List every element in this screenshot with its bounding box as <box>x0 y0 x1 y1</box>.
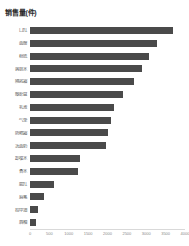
chart-title: 销售量(件) <box>5 7 36 17</box>
bar-cell <box>30 178 189 191</box>
bar-cell <box>30 24 189 37</box>
bar-cell <box>30 127 189 140</box>
bar-row: 乳液 <box>0 101 189 114</box>
bar-cell <box>30 139 189 152</box>
bar[interactable] <box>30 53 149 60</box>
bar-cell <box>30 62 189 75</box>
category-label: 唇釉 <box>0 220 30 224</box>
bar-row: 气垫 <box>0 114 189 127</box>
category-label: 腮红 <box>0 182 30 186</box>
bar-row: 面膜 <box>0 37 189 50</box>
x-tick-label: 3500 <box>161 232 170 236</box>
bar-row: 爽肤水 <box>0 62 189 75</box>
category-label: 卸妆水 <box>0 156 30 160</box>
bar[interactable] <box>30 27 173 34</box>
bar-cell <box>30 152 189 165</box>
x-tick-label: 1000 <box>64 232 73 236</box>
category-label: 防晒霜 <box>0 131 30 135</box>
plot-area: 口红面膜粉底爽肤水隔离霜眼影盘乳液气垫防晒霜洗面奶卸妆水香水腮红眉笔指甲油唇釉 <box>0 24 189 229</box>
bar-row: 眼影盘 <box>0 88 189 101</box>
bar-row: 香水 <box>0 165 189 178</box>
bar-row: 唇釉 <box>0 216 189 229</box>
sales-bar-chart: 销售量(件) 口红面膜粉底爽肤水隔离霜眼影盘乳液气垫防晒霜洗面奶卸妆水香水腮红眉… <box>0 0 189 246</box>
x-tick-label: 4000 <box>181 232 189 236</box>
bar-cell <box>30 114 189 127</box>
bar-cell <box>30 50 189 63</box>
bar-row: 卸妆水 <box>0 152 189 165</box>
bar-row: 防晒霜 <box>0 127 189 140</box>
bar[interactable] <box>30 181 54 188</box>
category-label: 乳液 <box>0 105 30 109</box>
bar[interactable] <box>30 104 114 111</box>
category-label: 眉笔 <box>0 195 30 199</box>
x-tick-label: 500 <box>46 232 53 236</box>
bar-cell <box>30 75 189 88</box>
bar-row: 隔离霜 <box>0 75 189 88</box>
bar[interactable] <box>30 117 111 124</box>
bar[interactable] <box>30 193 44 200</box>
category-label: 指甲油 <box>0 208 30 212</box>
bar[interactable] <box>30 65 142 72</box>
bar-cell <box>30 191 189 204</box>
bar[interactable] <box>30 129 108 136</box>
bar-cell <box>30 216 189 229</box>
category-label: 爽肤水 <box>0 67 30 71</box>
bar[interactable] <box>30 91 123 98</box>
bar-cell <box>30 88 189 101</box>
bar[interactable] <box>30 142 106 149</box>
bar[interactable] <box>30 40 157 47</box>
bar-row: 洗面奶 <box>0 139 189 152</box>
bar-row: 口红 <box>0 24 189 37</box>
bar-row: 腮红 <box>0 178 189 191</box>
category-label: 香水 <box>0 169 30 173</box>
bar-cell <box>30 165 189 178</box>
x-tick-label: 0 <box>29 232 31 236</box>
x-tick-label: 2000 <box>103 232 112 236</box>
bar-cell <box>30 101 189 114</box>
category-label: 口红 <box>0 28 30 32</box>
category-label: 气垫 <box>0 118 30 122</box>
bar-cell <box>30 37 189 50</box>
x-tick-label: 1500 <box>84 232 93 236</box>
category-label: 面膜 <box>0 41 30 45</box>
category-label: 眼影盘 <box>0 92 30 96</box>
bar[interactable] <box>30 168 78 175</box>
bar[interactable] <box>30 155 80 162</box>
x-tick-label: 2500 <box>122 232 131 236</box>
bar-row: 指甲油 <box>0 203 189 216</box>
x-tick-label: 3000 <box>142 232 151 236</box>
category-label: 隔离霜 <box>0 79 30 83</box>
bar-cell <box>30 203 189 216</box>
bar-row: 眉笔 <box>0 191 189 204</box>
bar-row: 粉底 <box>0 50 189 63</box>
category-label: 粉底 <box>0 54 30 58</box>
bar[interactable] <box>30 206 38 213</box>
category-label: 洗面奶 <box>0 144 30 148</box>
bar[interactable] <box>30 78 134 85</box>
x-axis: 05001000150020002500300035004000 <box>0 229 189 246</box>
x-axis-line <box>30 229 185 230</box>
bar[interactable] <box>30 219 36 226</box>
